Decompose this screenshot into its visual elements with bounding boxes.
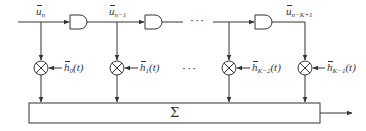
multiplier-3 xyxy=(298,61,312,75)
delay-element-2 xyxy=(145,15,162,29)
delay-element-1 xyxy=(70,15,87,29)
summer-sigma-label: Σ xyxy=(170,105,179,120)
label-h1: h1(t) xyxy=(140,62,159,75)
ellipsis-middle: ··· xyxy=(182,61,197,75)
label-u-n: un xyxy=(36,6,45,19)
label-h-k-2: hK−2(t) xyxy=(252,62,281,75)
ellipsis-top: ··· xyxy=(190,13,205,27)
multiplier-2 xyxy=(222,61,236,75)
label-h0: h0(t) xyxy=(64,62,83,75)
label-u-n-k-1: un−K+1 xyxy=(286,6,313,19)
label-u-n-1: un−1 xyxy=(109,6,126,19)
label-h-k-1: hK−1(t) xyxy=(327,62,356,75)
multiplier-0 xyxy=(34,61,48,75)
multiplier-1 xyxy=(110,61,124,75)
delay-element-3 xyxy=(255,15,272,29)
